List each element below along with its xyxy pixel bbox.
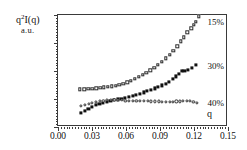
x-axis-minor-tick (149, 127, 150, 129)
y-axis-minor-tick (56, 124, 58, 125)
chart-figure: q2I(q) a.u. 0.0E+05.0E-41.0E-31.5E-32.0E… (0, 0, 247, 150)
x-axis-minor-tick (109, 127, 110, 129)
y-axis-minor-tick (56, 119, 58, 120)
y-axis-minor-tick (56, 35, 58, 36)
series-label-15pct: 15% (208, 17, 225, 27)
x-axis-minor-tick (183, 127, 184, 129)
y-axis-minor-tick (56, 74, 58, 75)
x-axis-minor-tick (75, 127, 76, 129)
x-axis-minor-tick (120, 127, 121, 129)
y-axis-minor-tick (56, 65, 58, 66)
data-point-40pct (135, 99, 138, 102)
y-axis-minor-tick (56, 18, 58, 19)
data-point-30pct (127, 95, 130, 98)
data-point-15pct (179, 40, 182, 43)
y-axis-units: a.u. (16, 26, 40, 35)
x-axis-minor-tick (203, 127, 204, 129)
data-point-30pct (157, 86, 160, 89)
x-axis-symbol: q (207, 108, 212, 119)
y-axis-minor-tick (56, 57, 58, 58)
x-axis-minor-tick (186, 127, 187, 129)
x-axis-minor-tick (152, 127, 153, 129)
y-axis-minor-tick (56, 26, 58, 27)
x-axis-minor-tick (135, 127, 136, 129)
data-point-30pct (190, 66, 193, 69)
data-point-15pct (164, 57, 167, 60)
x-axis-minor-tick (72, 127, 73, 129)
x-axis-minor-tick (146, 127, 147, 129)
y-axis-minor-tick (56, 60, 58, 61)
x-axis-tick-label: 0.06 (118, 131, 134, 141)
y-axis-minor-tick (56, 23, 58, 24)
data-point-40pct (80, 104, 83, 107)
y-axis-minor-tick (56, 105, 58, 106)
x-axis-minor-tick (140, 127, 141, 129)
y-axis-minor-tick (56, 79, 58, 80)
x-axis-minor-tick (171, 127, 172, 129)
y-axis-minor-tick (56, 51, 58, 52)
data-point-40pct (195, 101, 198, 104)
x-axis-tick-label: 0.09 (152, 131, 168, 141)
x-axis-minor-tick (225, 127, 226, 129)
x-axis-minor-tick (69, 127, 70, 129)
x-axis-minor-tick (101, 127, 102, 129)
data-point-40pct (139, 100, 142, 103)
y-axis-minor-tick (56, 29, 58, 30)
y-axis-minor-tick (56, 93, 58, 94)
data-point-15pct (176, 45, 179, 48)
data-point-40pct (164, 100, 167, 103)
series-label-30pct: 30% (208, 61, 225, 71)
x-axis-minor-tick (129, 127, 130, 129)
x-axis-minor-tick (61, 127, 62, 129)
x-axis-minor-tick (205, 127, 206, 129)
x-axis-minor-tick (118, 127, 119, 129)
y-axis-minor-tick (56, 110, 58, 111)
x-axis-minor-tick (163, 127, 164, 129)
data-point-30pct (171, 78, 174, 81)
data-point-30pct (94, 104, 97, 107)
x-axis-minor-tick (123, 127, 124, 129)
x-axis-minor-tick (166, 127, 167, 129)
y-axis-minor-tick (56, 49, 58, 50)
x-axis-minor-tick (98, 127, 99, 129)
x-axis-minor-tick (64, 127, 65, 129)
data-point-15pct (190, 26, 193, 29)
x-axis-minor-tick (84, 127, 85, 129)
x-axis-minor-tick (143, 127, 144, 129)
y-axis-minor-tick (56, 54, 58, 55)
x-axis-minor-tick (211, 127, 212, 129)
y-axis-minor-tick (56, 102, 58, 103)
y-axis-major-tick (54, 71, 58, 72)
data-point-30pct (98, 102, 101, 105)
y-axis-minor-tick (56, 113, 58, 114)
x-axis-minor-tick (169, 127, 170, 129)
x-axis-minor-tick (115, 127, 116, 129)
x-axis-minor-tick (67, 127, 68, 129)
data-point-30pct (138, 92, 141, 95)
data-point-30pct (83, 109, 86, 112)
data-point-15pct (168, 53, 171, 56)
x-axis-minor-tick (222, 127, 223, 129)
y-axis-minor-tick (56, 46, 58, 47)
x-axis-tick-label: 0.15 (220, 131, 236, 141)
y-axis-minor-tick (56, 85, 58, 86)
data-point-15pct (192, 23, 195, 26)
x-axis-minor-tick (154, 127, 155, 129)
data-point-15pct (83, 87, 86, 90)
x-axis-minor-tick (95, 127, 96, 129)
y-axis-minor-tick (56, 32, 58, 33)
x-axis-tick-label: 0.12 (186, 131, 202, 141)
y-axis-minor-tick (56, 68, 58, 69)
data-point-30pct (187, 68, 190, 71)
data-point-15pct (186, 31, 189, 34)
x-axis-minor-tick (137, 127, 138, 129)
x-axis-minor-tick (214, 127, 215, 129)
y-axis-minor-tick (56, 63, 58, 64)
data-point-15pct (182, 36, 185, 39)
data-point-40pct (124, 99, 127, 102)
x-axis-minor-tick (188, 127, 189, 129)
y-axis-major-tick (54, 15, 58, 16)
x-axis-minor-tick (220, 127, 221, 129)
x-axis-minor-tick (89, 127, 90, 129)
x-axis-minor-tick (103, 127, 104, 129)
